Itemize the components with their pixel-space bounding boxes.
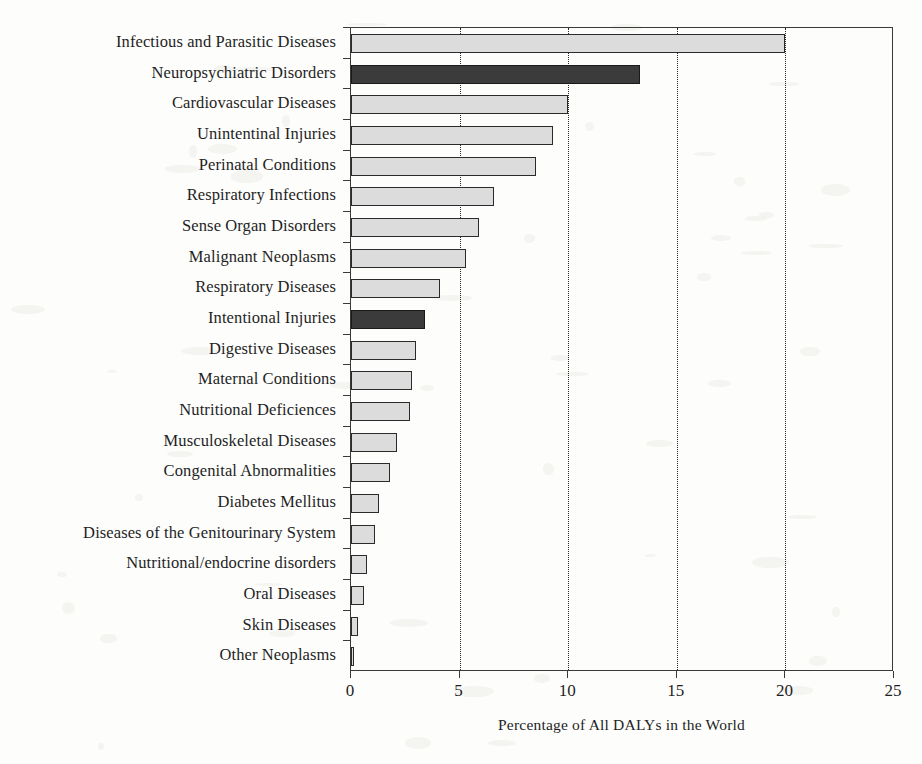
paper-speck bbox=[534, 674, 550, 683]
category-label: Cardiovascular Diseases bbox=[172, 88, 336, 119]
bar bbox=[351, 65, 640, 84]
category-label: Respiratory Infections bbox=[187, 180, 336, 211]
bar bbox=[351, 617, 358, 636]
y-tick-mark bbox=[343, 27, 350, 28]
x-tick-mark-15 bbox=[676, 671, 677, 678]
bar bbox=[351, 525, 375, 544]
y-tick-mark bbox=[343, 518, 350, 519]
bar bbox=[351, 34, 785, 53]
bar bbox=[351, 249, 466, 268]
bar-row bbox=[351, 243, 892, 274]
bar bbox=[351, 341, 416, 360]
bar bbox=[351, 555, 367, 574]
bar bbox=[351, 494, 379, 513]
category-label: Other Neoplasms bbox=[219, 640, 336, 671]
x-tick-label: 10 bbox=[559, 681, 576, 701]
bar-row bbox=[351, 28, 892, 59]
plot-area bbox=[350, 27, 893, 671]
y-tick-mark bbox=[343, 150, 350, 151]
bar bbox=[351, 371, 412, 390]
y-tick-mark bbox=[343, 456, 350, 457]
bar bbox=[351, 95, 568, 114]
bar-row bbox=[351, 181, 892, 212]
x-tick-label: 20 bbox=[776, 681, 793, 701]
x-tick-mark-5 bbox=[459, 671, 460, 678]
bar bbox=[351, 463, 390, 482]
y-tick-mark bbox=[343, 548, 350, 549]
category-label: Oral Diseases bbox=[244, 579, 336, 610]
category-label: Digestive Diseases bbox=[209, 334, 336, 365]
bar-row bbox=[351, 611, 892, 642]
bar bbox=[351, 218, 479, 237]
y-tick-mark bbox=[343, 58, 350, 59]
bar-row bbox=[351, 273, 892, 304]
category-label: Malignant Neoplasms bbox=[189, 242, 336, 273]
category-label: Nutritional Deficiences bbox=[179, 395, 336, 426]
bar-row bbox=[351, 457, 892, 488]
bar bbox=[351, 402, 410, 421]
bar-row bbox=[351, 519, 892, 550]
bar-row bbox=[351, 120, 892, 151]
y-tick-mark bbox=[343, 211, 350, 212]
y-tick-mark bbox=[343, 579, 350, 580]
category-label: Skin Diseases bbox=[243, 610, 336, 641]
bar-row bbox=[351, 549, 892, 580]
category-label: Intentional Injuries bbox=[208, 303, 336, 334]
bar-row bbox=[351, 427, 892, 458]
paper-speck bbox=[405, 737, 431, 749]
category-label: Diseases of the Genitourinary System bbox=[83, 518, 336, 549]
category-label: Diabetes Mellitus bbox=[217, 487, 336, 518]
bar bbox=[351, 586, 364, 605]
y-tick-mark bbox=[343, 303, 350, 304]
bar-row bbox=[351, 641, 892, 672]
bar-chart-figure: Infectious and Parasitic DiseasesNeurops… bbox=[0, 0, 922, 764]
x-tick-mark-0 bbox=[350, 671, 351, 678]
y-tick-mark bbox=[343, 334, 350, 335]
y-tick-mark bbox=[343, 88, 350, 89]
bar bbox=[351, 310, 425, 329]
bar-row bbox=[351, 580, 892, 611]
x-tick-label: 0 bbox=[346, 681, 355, 701]
y-tick-mark bbox=[343, 272, 350, 273]
y-tick-mark bbox=[343, 426, 350, 427]
bar bbox=[351, 187, 494, 206]
category-label: Maternal Conditions bbox=[198, 364, 336, 395]
x-tick-label: 15 bbox=[667, 681, 684, 701]
bar bbox=[351, 647, 354, 666]
category-label-column: Infectious and Parasitic DiseasesNeurops… bbox=[0, 27, 344, 671]
bar-row bbox=[351, 396, 892, 427]
bar-row bbox=[351, 304, 892, 335]
category-label: Congenital Abnormalities bbox=[164, 456, 336, 487]
x-tick-mark-25 bbox=[893, 671, 894, 678]
bar-row bbox=[351, 59, 892, 90]
bar-row bbox=[351, 151, 892, 182]
x-tick-label: 25 bbox=[885, 681, 902, 701]
category-label: Respiratory Diseases bbox=[195, 272, 336, 303]
y-tick-mark bbox=[343, 395, 350, 396]
x-tick-mark-20 bbox=[784, 671, 785, 678]
bar bbox=[351, 433, 397, 452]
paper-speck bbox=[98, 743, 104, 750]
bar-row bbox=[351, 488, 892, 519]
paper-speck bbox=[346, 23, 388, 27]
y-tick-mark bbox=[343, 364, 350, 365]
paper-speck bbox=[488, 740, 515, 746]
bar-row bbox=[351, 89, 892, 120]
category-label: Nutritional/endocrine disorders bbox=[126, 548, 336, 579]
y-tick-mark bbox=[343, 180, 350, 181]
bar bbox=[351, 157, 536, 176]
x-axis-title: Percentage of All DALYs in the World bbox=[350, 716, 893, 734]
category-label: Sense Organ Disorders bbox=[182, 211, 336, 242]
bar-row bbox=[351, 365, 892, 396]
bar bbox=[351, 279, 440, 298]
y-tick-mark bbox=[343, 487, 350, 488]
y-tick-mark bbox=[343, 610, 350, 611]
category-label: Neuropsychiatric Disorders bbox=[151, 58, 336, 89]
x-tick-mark-10 bbox=[567, 671, 568, 678]
category-label: Musculoskeletal Diseases bbox=[164, 426, 336, 457]
x-tick-label: 5 bbox=[454, 681, 463, 701]
bar-row bbox=[351, 212, 892, 243]
category-label: Unintentinal Injuries bbox=[197, 119, 336, 150]
category-label: Perinatal Conditions bbox=[199, 150, 336, 181]
y-tick-mark bbox=[343, 242, 350, 243]
